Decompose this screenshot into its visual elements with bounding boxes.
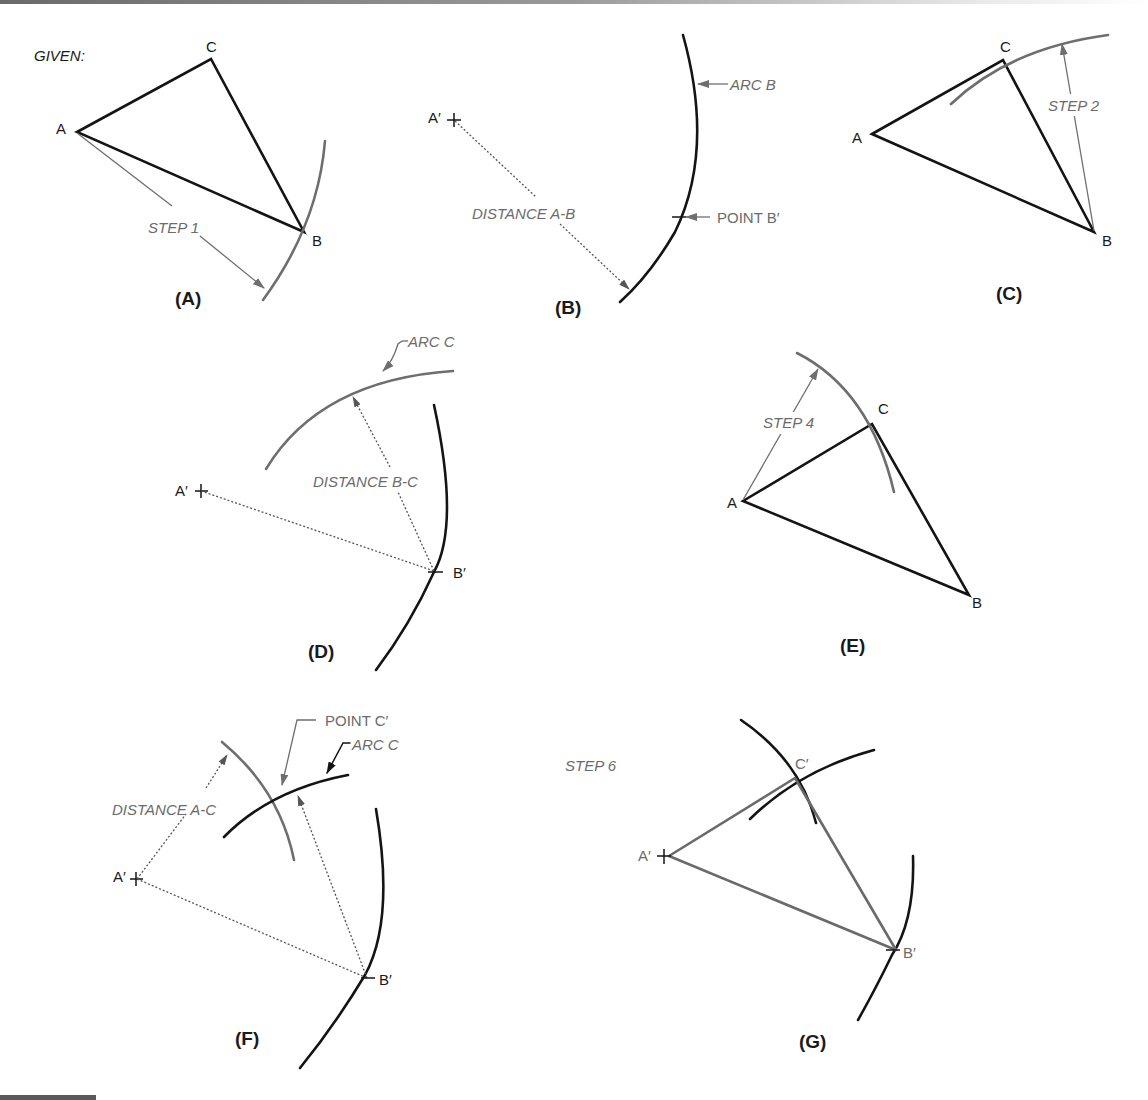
- distance-ab-line-2: [560, 224, 629, 289]
- vertex-a-label: A: [852, 129, 862, 146]
- distance-bc-line-1: [398, 492, 434, 571]
- arc-c-label: ARC C: [407, 333, 455, 350]
- distance-ac-line-2: [206, 755, 227, 788]
- panel-e: A C B STEP 4 (E): [727, 353, 982, 656]
- arc-distance-ac: [222, 742, 294, 860]
- given-label: GIVEN:: [34, 47, 85, 64]
- arc-b-label: ARC B: [729, 76, 776, 93]
- b-prime-label: B′: [379, 971, 392, 988]
- arc-b: [620, 35, 697, 302]
- distance-ab-line: [201, 491, 434, 571]
- arc-c-leader: [383, 341, 402, 371]
- arc-step1: [263, 141, 325, 300]
- step6-label: STEP 6: [565, 757, 617, 774]
- vertex-c-label: C: [206, 38, 217, 55]
- given-triangle: [872, 60, 1094, 232]
- vertex-c-label: C: [1000, 38, 1011, 55]
- a-prime-cross-icon: [657, 849, 671, 864]
- vertex-a-label: A: [727, 494, 737, 511]
- vertex-b-label: B: [312, 232, 322, 249]
- panel-a: GIVEN: C A B STEP 1 (A): [34, 38, 325, 309]
- arc-b: [300, 809, 383, 1068]
- b-prime-label: B′: [453, 564, 466, 581]
- panel-f-label: (F): [235, 1028, 259, 1049]
- arc-c: [266, 371, 453, 469]
- point-c-prime-label: POINT C′: [325, 712, 389, 729]
- panel-g-label: (G): [799, 1031, 826, 1052]
- given-triangle: [743, 424, 969, 595]
- arc-b: [376, 405, 447, 670]
- given-triangle: [77, 59, 304, 232]
- step1-label: STEP 1: [148, 219, 199, 236]
- distance-bc-line-2: [353, 397, 390, 467]
- vertex-b-label: B: [972, 594, 982, 611]
- transferred-triangle: [669, 778, 896, 950]
- arc-step2: [951, 35, 1108, 104]
- arc-c-label: ARC C: [351, 736, 399, 753]
- vertex-b-label: B: [1102, 232, 1112, 249]
- distance-ac-line-1: [137, 814, 186, 879]
- step2-label: STEP 2: [1048, 97, 1100, 114]
- point-c-prime-leader: [282, 720, 316, 785]
- a-prime-cross-icon: [130, 872, 143, 886]
- panel-f: A′ DISTANCE A-C POINT C′ ARC C B′ (F): [112, 712, 399, 1068]
- distance-bc-line: [298, 796, 367, 978]
- panel-c-label: (C): [996, 283, 1022, 304]
- step1-arrow: [200, 236, 264, 288]
- a-prime-label: A′: [638, 847, 651, 864]
- panel-d: A′ ARC C DISTANCE B-C B′ (D): [175, 333, 466, 670]
- distance-ab-line-1: [455, 121, 536, 197]
- point-b-prime-label: POINT B′: [717, 209, 780, 226]
- step4-label: STEP 4: [763, 414, 814, 431]
- vertex-c-label: C: [878, 400, 889, 417]
- corner-bar: [0, 1095, 96, 1100]
- step4-arrow: [743, 369, 818, 500]
- c-prime-label: C′: [795, 755, 809, 772]
- a-prime-label: A′: [428, 109, 441, 126]
- distance-ac-label: DISTANCE A-C: [112, 801, 216, 818]
- distance-ab-label: DISTANCE A-B: [472, 205, 575, 222]
- triangle-transfer-figure: GIVEN: C A B STEP 1 (A) A′ ARC B DISTANC…: [0, 0, 1148, 1100]
- panel-b-label: (B): [555, 297, 581, 318]
- panel-e-label: (E): [840, 635, 865, 656]
- vertex-a-label: A: [56, 120, 66, 137]
- panel-g: STEP 6 A′ C′ B′ (G): [565, 720, 916, 1052]
- step1-leader: [77, 133, 172, 206]
- arc-c-leader: [327, 743, 350, 773]
- b-prime-label: B′: [903, 944, 916, 961]
- panel-b: A′ ARC B DISTANCE A-B POINT B′ (B): [428, 35, 780, 318]
- panel-a-label: (A): [175, 288, 201, 309]
- panel-c: C A B STEP 2 (C): [852, 35, 1112, 304]
- a-prime-label: A′: [113, 868, 126, 885]
- distance-ab-line: [137, 879, 367, 978]
- distance-bc-label: DISTANCE B-C: [313, 473, 418, 490]
- a-prime-label: A′: [175, 482, 188, 499]
- panel-d-label: (D): [308, 641, 334, 662]
